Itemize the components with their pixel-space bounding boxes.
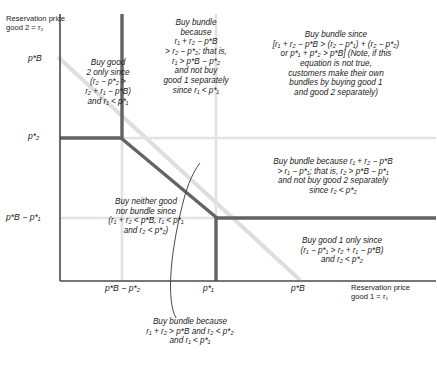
region-label-buy-bundle-top: Buy bundle because r₁ + r₂ − p*B > r₂ − … xyxy=(160,18,232,95)
x-axis-title: Reservation price good 1 = r₁ xyxy=(351,283,435,302)
x-tick-pb: p*B xyxy=(291,283,305,293)
x-tick-p1: p*₁ xyxy=(203,283,214,293)
region-label-buy-good-2-only: Buy good 2 only since (r₂ − p*₂ > r₂ + r… xyxy=(62,58,154,106)
x-tick-pb-minus-p2: p*B − p*₂ xyxy=(105,283,140,293)
region-label-buy-bundle-upper-right: Buy bundle since [r₁ + r₂ − p*B > (r₂ − … xyxy=(236,30,436,98)
callout-label-buy-bundle-bottom: Buy bundle because r₁ + r₂ > p*B and r₂ … xyxy=(110,317,270,346)
y-tick-pb: p*B xyxy=(28,53,42,63)
region-label-buy-neither: Buy neither good nor bundle since (r₁ + … xyxy=(78,197,214,236)
bundling-diagram: Reservation price good 2 = r₂ Reservatio… xyxy=(0,0,437,366)
region-label-buy-good-1-only: Buy good 1 only since (r₁ − p*₁ > r₂ + r… xyxy=(262,236,422,265)
y-tick-pb-minus-p1: p*B − p*₁ xyxy=(6,212,40,222)
y-tick-p2: p*₂ xyxy=(28,131,39,141)
region-label-buy-bundle-middle-right: Buy bundle because r₁ + r₂ − p*B > r₁ − … xyxy=(232,157,434,196)
callout-leader-line xyxy=(170,163,200,318)
y-axis-title: Reservation price good 2 = r₂ xyxy=(6,14,90,33)
